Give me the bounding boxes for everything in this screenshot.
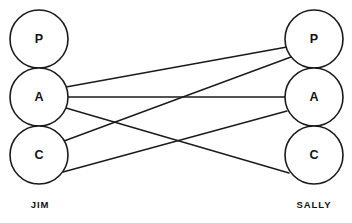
transaction-line-jim-c-to-sally-p[interactable]: [64, 57, 291, 141]
ego-label-sally-parent: P: [310, 32, 318, 46]
person-name-jim: JIM: [31, 199, 50, 210]
ego-label-sally-adult: A: [309, 90, 318, 104]
ego-state-sally-adult[interactable]: A: [285, 68, 343, 126]
transactional-analysis-diagram: P A C JIM P A C: [0, 0, 352, 223]
transaction-lines-group: [63, 47, 291, 173]
ego-state-jim-parent[interactable]: P: [10, 10, 68, 68]
ego-label-jim-adult: A: [34, 90, 43, 104]
ego-label-jim-child: C: [34, 148, 43, 162]
person-column-sally: P A C SALLY: [285, 10, 343, 210]
person-name-sally: SALLY: [297, 199, 332, 210]
ego-state-jim-adult[interactable]: A: [10, 68, 68, 126]
person-column-jim: P A C JIM: [10, 10, 68, 210]
transaction-line-jim-a-to-sally-p[interactable]: [66, 47, 287, 87]
diagram-canvas: P A C JIM P A C: [0, 0, 352, 223]
ego-state-sally-parent[interactable]: P: [285, 10, 343, 68]
ego-label-sally-child: C: [309, 148, 318, 162]
ego-label-jim-parent: P: [35, 32, 43, 46]
ego-state-sally-child[interactable]: C: [285, 126, 343, 184]
ego-state-jim-child[interactable]: C: [10, 126, 68, 184]
